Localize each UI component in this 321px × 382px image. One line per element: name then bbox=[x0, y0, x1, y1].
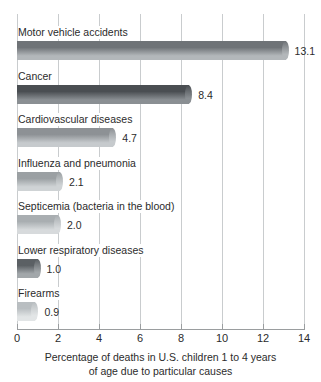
tick-mark-6 bbox=[140, 324, 141, 330]
bar-end-cap bbox=[282, 41, 289, 60]
bar-category-label: Cancer bbox=[18, 70, 54, 83]
tick-mark-12 bbox=[263, 324, 264, 330]
bar-end-cap bbox=[185, 85, 192, 104]
bar-category-label: Motor vehicle accidents bbox=[18, 26, 130, 39]
bar bbox=[17, 41, 286, 60]
chart-caption: Percentage of deaths in U.S. children 1 … bbox=[0, 351, 321, 378]
bar-end-cap bbox=[56, 172, 63, 191]
bar-body bbox=[17, 85, 189, 104]
bar bbox=[17, 85, 189, 104]
x-tick-label: 8 bbox=[169, 332, 193, 345]
bar bbox=[17, 128, 113, 147]
bar-value-label: 8.4 bbox=[198, 89, 213, 102]
bar-row: Septicemia (bacteria in the blood)2.0 bbox=[0, 200, 321, 234]
x-tick-label: 2 bbox=[46, 332, 70, 345]
tick-mark-14 bbox=[304, 324, 305, 330]
bar-value-label: 4.7 bbox=[122, 132, 137, 145]
caption-line-1: Percentage of deaths in U.S. children 1 … bbox=[0, 351, 321, 365]
x-axis-line bbox=[17, 329, 304, 330]
tick-mark-10 bbox=[222, 324, 223, 330]
x-tick-label: 12 bbox=[251, 332, 275, 345]
bar bbox=[17, 172, 60, 191]
bar-value-label: 1.0 bbox=[47, 263, 62, 276]
bar-body bbox=[17, 215, 58, 234]
x-tick-label: 4 bbox=[87, 332, 111, 345]
bar-row: Cancer8.4 bbox=[0, 70, 321, 104]
bar-category-label: Lower respiratory diseases bbox=[18, 244, 145, 257]
tick-mark-2 bbox=[58, 324, 59, 330]
bar-row: Firearms0.9 bbox=[0, 287, 321, 321]
caption-line-2: of age due to particular causes bbox=[0, 365, 321, 379]
x-tick-label: 10 bbox=[210, 332, 234, 345]
bar-row: Influenza and pneumonia2.1 bbox=[0, 157, 321, 191]
bar-row: Cardiovascular diseases4.7 bbox=[0, 113, 321, 147]
bar bbox=[17, 215, 58, 234]
bar-category-label: Firearms bbox=[18, 287, 61, 300]
bar-value-label: 0.9 bbox=[44, 306, 59, 319]
bar-value-label: 2.0 bbox=[67, 219, 82, 232]
bar-value-label: 2.1 bbox=[69, 176, 84, 189]
x-tick-label: 6 bbox=[128, 332, 152, 345]
bar-end-cap bbox=[34, 259, 41, 278]
bar-category-label: Septicemia (bacteria in the blood) bbox=[18, 200, 176, 213]
bar-end-cap bbox=[31, 302, 38, 321]
x-tick-label: 0 bbox=[5, 332, 29, 345]
bar-value-label: 13.1 bbox=[295, 45, 315, 58]
bar-body bbox=[17, 172, 60, 191]
x-tick-label: 14 bbox=[292, 332, 316, 345]
bar-end-cap bbox=[54, 215, 61, 234]
bar-row: Motor vehicle accidents13.1 bbox=[0, 26, 321, 60]
bar-row: Lower respiratory diseases1.0 bbox=[0, 244, 321, 278]
bar-chart: Motor vehicle accidents13.1Cancer8.4Card… bbox=[0, 0, 321, 382]
bar bbox=[17, 259, 38, 278]
bar-category-label: Influenza and pneumonia bbox=[18, 157, 138, 170]
bar bbox=[17, 302, 35, 321]
bar-body bbox=[17, 128, 113, 147]
bar-category-label: Cardiovascular diseases bbox=[18, 113, 134, 126]
tick-mark-4 bbox=[99, 324, 100, 330]
bar-body bbox=[17, 41, 286, 60]
bar-end-cap bbox=[109, 128, 116, 147]
tick-mark-0 bbox=[17, 324, 18, 330]
tick-mark-8 bbox=[181, 324, 182, 330]
